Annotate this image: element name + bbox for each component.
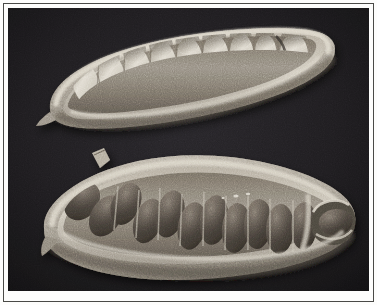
photograph-artwork xyxy=(8,8,369,291)
plate-page xyxy=(0,0,377,305)
photograph xyxy=(8,8,369,291)
photo-tone-wash xyxy=(8,8,369,291)
